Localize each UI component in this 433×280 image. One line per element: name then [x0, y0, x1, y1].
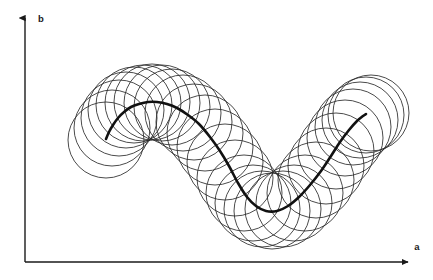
circle-family	[68, 64, 409, 249]
y-axis-label: b	[38, 13, 44, 24]
diagram-canvas: b a	[0, 0, 433, 280]
x-axis-label: a	[414, 241, 420, 252]
envelope-circle	[167, 95, 243, 171]
figure-container: b a	[0, 0, 433, 280]
envelope-circle	[156, 84, 232, 160]
